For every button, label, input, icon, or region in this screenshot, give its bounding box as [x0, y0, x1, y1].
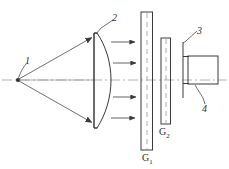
- label-plate-g1: G1: [142, 153, 153, 166]
- label-lens: 2: [112, 13, 117, 23]
- label-detector: 4: [202, 104, 207, 114]
- detector-leader-line: [195, 85, 205, 104]
- ray-lower: [19, 81, 92, 123]
- label-plate-g2: G2: [159, 127, 170, 140]
- label-plate-g1-subscript: 1: [149, 158, 153, 166]
- label-bracket: 3: [197, 26, 202, 36]
- plano-convex-lens: [94, 33, 111, 128]
- label-source: 1: [25, 56, 30, 66]
- figure-canvas: 1 2 3 4 G1 G2: [0, 0, 229, 169]
- bracket-leader-line: [183, 31, 197, 43]
- label-plate-g2-subscript: 2: [166, 132, 170, 140]
- optical-diagram: [0, 0, 229, 169]
- lens-leader-line: [96, 20, 113, 34]
